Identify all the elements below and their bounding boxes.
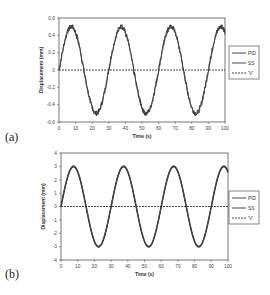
- x-tick-label: 0: [58, 126, 61, 131]
- x-tick-label: 10: [75, 264, 81, 269]
- y-tick-label: 0: [52, 68, 55, 73]
- legend-entry: SS: [248, 206, 254, 211]
- x-tick-label: 50: [142, 264, 148, 269]
- y-tick-label: 2: [54, 178, 57, 183]
- x-tick-label: 80: [192, 264, 198, 269]
- y-tick-label: 0: [54, 204, 57, 209]
- y-tick-label: -0.2: [47, 85, 56, 90]
- y-tick-label: 3: [54, 164, 57, 169]
- y-tick-label: 0.4: [48, 33, 55, 38]
- x-tick-label: 30: [108, 264, 114, 269]
- chart-panel-b: -4-3-2-1012340102030405060708090100Time …: [0, 145, 270, 295]
- legend-entry: PID: [248, 196, 257, 201]
- y-tick-label: 0.6: [48, 16, 55, 21]
- x-tick-label: 60: [156, 126, 162, 131]
- y-tick-label: -0.4: [47, 102, 56, 107]
- legend-entry: PID: [248, 51, 257, 56]
- x-tick-label: 30: [106, 126, 112, 131]
- y-axis-label: Displacement (mm): [40, 183, 46, 229]
- y-tick-label: -3: [53, 244, 58, 249]
- legend-entry: SS: [248, 61, 254, 66]
- legend-entry: 'V': [248, 216, 253, 221]
- chart-b-plot: -4-3-2-1012340102030405060708090100Time …: [0, 145, 270, 295]
- x-tick-label: 90: [206, 126, 212, 131]
- y-tick-label: 4: [54, 151, 57, 156]
- x-tick-label: 70: [173, 126, 179, 131]
- panel-label-b: (b): [5, 267, 19, 282]
- x-axis-label: Time (s): [135, 271, 154, 277]
- x-tick-label: 50: [139, 126, 145, 131]
- x-tick-label: 0: [60, 264, 63, 269]
- x-tick-label: 80: [189, 126, 195, 131]
- chart-panel-a: -0.6-0.4-0.200.20.40.6010203040506070809…: [0, 0, 270, 148]
- y-tick-label: -0.6: [47, 120, 56, 125]
- y-axis-label: Displacement (mm): [38, 47, 44, 93]
- y-tick-label: -2: [53, 231, 58, 236]
- panel-label-a: (a): [5, 130, 18, 145]
- x-tick-label: 20: [92, 264, 98, 269]
- x-tick-label: 10: [73, 126, 79, 131]
- x-tick-label: 60: [159, 264, 165, 269]
- x-axis-label: Time (s): [132, 133, 151, 139]
- chart-a-plot: -0.6-0.4-0.200.20.40.6010203040506070809…: [0, 0, 270, 148]
- x-tick-label: 40: [125, 264, 131, 269]
- x-tick-label: 100: [224, 264, 232, 269]
- x-tick-label: 100: [221, 126, 229, 131]
- y-tick-label: -4: [53, 258, 58, 263]
- y-tick-label: 1: [54, 191, 57, 196]
- y-tick-label: 0.2: [48, 50, 55, 55]
- x-tick-label: 90: [209, 264, 215, 269]
- x-tick-label: 40: [123, 126, 129, 131]
- x-tick-label: 20: [90, 126, 96, 131]
- legend-entry: 'V': [248, 71, 253, 76]
- x-tick-label: 70: [175, 264, 181, 269]
- y-tick-label: -1: [53, 218, 58, 223]
